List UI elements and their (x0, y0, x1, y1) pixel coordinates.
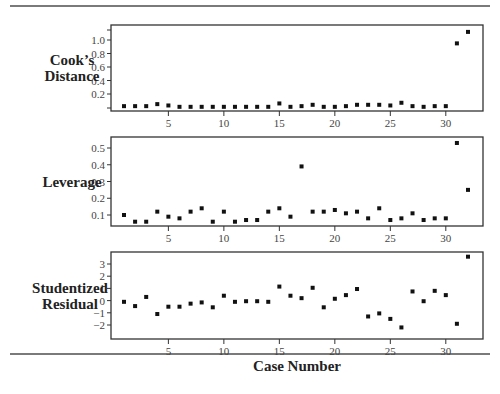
x-tick-label: 5 (166, 117, 172, 129)
x-tick-label: 10 (218, 117, 230, 129)
y-tick-label: −2 (93, 319, 105, 331)
data-point (366, 314, 370, 318)
data-point (200, 105, 204, 109)
data-point (244, 105, 248, 109)
data-point (433, 216, 437, 220)
data-point (266, 210, 270, 214)
data-point (455, 322, 459, 326)
data-point (355, 210, 359, 214)
data-point (333, 297, 337, 301)
data-point (422, 218, 426, 222)
diagnostic-plots: 0.20.40.60.81.051015202530Cook’sDistance… (0, 0, 500, 394)
data-point (411, 289, 415, 293)
data-point (222, 210, 226, 214)
data-point (388, 103, 392, 107)
x-tick-label: 15 (274, 345, 286, 357)
data-point (311, 210, 315, 214)
data-point (211, 220, 215, 224)
data-point (189, 210, 193, 214)
data-point (433, 289, 437, 293)
data-point (377, 103, 381, 107)
data-point (122, 104, 126, 108)
x-tick-label: 30 (440, 345, 452, 357)
data-point (455, 141, 459, 145)
data-point (166, 215, 170, 219)
data-point (233, 220, 237, 224)
data-point (388, 218, 392, 222)
data-point (322, 105, 326, 109)
data-point (344, 211, 348, 215)
data-point (388, 317, 392, 321)
cooks-distance-panel: 0.20.40.60.81.051015202530Cook’sDistance (45, 25, 484, 129)
data-point (444, 293, 448, 297)
data-point (300, 164, 304, 168)
data-point (122, 213, 126, 217)
data-point (255, 105, 259, 109)
data-point (311, 286, 315, 290)
data-point (422, 299, 426, 303)
x-tick-label: 15 (274, 232, 286, 244)
data-point (344, 104, 348, 108)
data-point (322, 210, 326, 214)
data-point (399, 101, 403, 105)
data-point (366, 216, 370, 220)
data-point (222, 105, 226, 109)
x-tick-label: 15 (274, 117, 286, 129)
data-point (300, 104, 304, 108)
data-point (288, 105, 292, 109)
y-tick-label: 3 (100, 258, 106, 270)
x-tick-label: 30 (440, 232, 452, 244)
y-tick-label: 0.2 (91, 192, 105, 204)
data-point (133, 304, 137, 308)
data-point (189, 302, 193, 306)
data-point (166, 103, 170, 107)
data-point (189, 105, 193, 109)
y-axis-label: Cook’s (50, 52, 95, 68)
y-tick-label: 0.2 (91, 88, 105, 100)
y-axis-label: Distance (45, 68, 100, 84)
plot-frame (111, 25, 483, 111)
data-point (144, 220, 148, 224)
x-tick-label: 30 (440, 117, 452, 129)
data-point (255, 218, 259, 222)
plot-frame (111, 252, 483, 339)
plot-frame (111, 137, 483, 226)
y-tick-label: 0.5 (91, 142, 105, 154)
data-point (177, 305, 181, 309)
data-point (244, 299, 248, 303)
data-point (155, 210, 159, 214)
y-axis-label: Residual (42, 296, 98, 312)
data-point (133, 104, 137, 108)
x-tick-label: 5 (166, 345, 172, 357)
data-point (200, 206, 204, 210)
data-point (333, 105, 337, 109)
y-tick-label: 0.1 (91, 209, 105, 221)
data-point (233, 105, 237, 109)
data-point (277, 206, 281, 210)
data-point (144, 104, 148, 108)
data-point (466, 30, 470, 34)
data-point (355, 103, 359, 107)
data-point (411, 104, 415, 108)
data-point (144, 295, 148, 299)
data-point (233, 300, 237, 304)
x-tick-label: 20 (329, 232, 341, 244)
data-point (133, 220, 137, 224)
data-point (399, 216, 403, 220)
data-point (244, 218, 248, 222)
x-axis-title: Case Number (253, 358, 341, 374)
data-point (155, 312, 159, 316)
data-point (166, 305, 170, 309)
data-point (377, 206, 381, 210)
data-point (433, 104, 437, 108)
x-tick-label: 20 (329, 117, 341, 129)
data-point (300, 296, 304, 300)
data-point (211, 305, 215, 309)
x-tick-label: 25 (385, 345, 397, 357)
x-tick-label: 10 (218, 345, 230, 357)
data-point (122, 300, 126, 304)
data-point (177, 105, 181, 109)
data-point (422, 105, 426, 109)
y-tick-label: 1.0 (91, 34, 105, 46)
data-point (322, 305, 326, 309)
